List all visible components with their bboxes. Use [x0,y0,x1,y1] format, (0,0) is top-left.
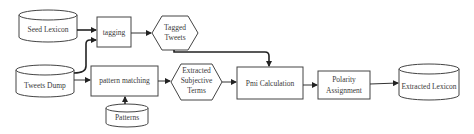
seed-lexicon-label: Seed Lexicon [27,25,68,34]
extracted-subjective-terms-line2: Subjective [181,76,213,85]
polarity-assignment-node: Polarity Assignment [318,71,370,99]
tagging-label: tagging [103,28,126,37]
patterns-label: Patterns [115,113,139,122]
extracted-subjective-terms-node: Extracted Subjective Terms [171,64,222,100]
tweets-dump-node: Tweets Dump [16,65,74,97]
patterns-node: Patterns [106,104,148,127]
seed-lexicon-node: Seed Lexicon [19,10,77,42]
polarity-assignment-line1: Polarity [332,75,356,84]
tweets-dump-label: Tweets Dump [24,81,66,90]
extracted-subjective-terms-line3: Terms [187,86,206,95]
tagged-tweets-label-line2: Tweets [164,33,185,42]
pattern-matching-node: pattern matching [91,66,158,96]
extracted-lexicon-label: Extracted Lexicon [401,82,456,91]
polarity-assignment-line2: Assignment [326,86,363,95]
flow-diagram: Seed Lexicon tagging Tagged Tweets Tweet… [0,0,474,134]
pmi-calculation-label: Pmi Calculation [246,79,295,88]
pmi-calculation-node: Pmi Calculation [237,67,303,99]
tagged-tweets-label-line1: Tagged [164,23,186,32]
edge-polarity-to-extracted-lexicon [370,83,398,84]
extracted-subjective-terms-line1: Extracted [182,66,211,75]
tagged-tweets-node: Tagged Tweets [152,16,198,50]
extracted-lexicon-node: Extracted Lexicon [399,64,459,100]
tagging-node: tagging [97,17,131,47]
pattern-matching-label: pattern matching [99,76,150,85]
